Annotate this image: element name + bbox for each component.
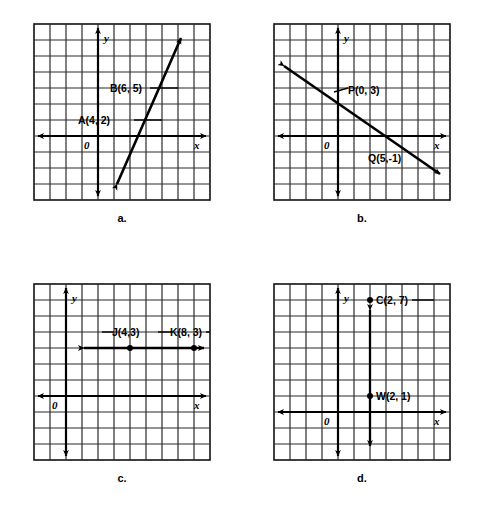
panel-a: A(4, 2) B(6, 5) y x 0 a. [26, 16, 218, 208]
point-marker-c [367, 297, 373, 303]
panel-a-graph: A(4, 2) B(6, 5) y x 0 [26, 16, 218, 208]
y-axis-label: y [342, 292, 349, 304]
panel-c-graph: J(4,3) K(8, 3) y x 0 [26, 276, 218, 468]
panel-d-graph: C(2, 7) W(2, 1) y x 0 [266, 276, 458, 468]
grid-frame [34, 284, 210, 460]
point-label-q: Q(5,-1) [368, 152, 401, 164]
point-marker-w [367, 393, 373, 399]
panel-d: C(2, 7) W(2, 1) y x 0 d. [266, 276, 458, 468]
point-label-c: C(2, 7) [376, 294, 408, 306]
x-axis-label: x [433, 139, 440, 151]
coordinate-plane-figure-sheet: A(4, 2) B(6, 5) y x 0 a. [0, 0, 484, 512]
y-axis-label: y [342, 32, 349, 44]
panel-caption-c: c. [26, 472, 218, 484]
panel-caption-d: d. [266, 472, 458, 484]
panel-caption-b: b. [266, 212, 458, 224]
panel-caption-a: a. [26, 212, 218, 224]
point-label-w: W(2, 1) [376, 390, 410, 402]
point-label-k: K(8, 3) [170, 326, 202, 338]
panel-b-graph: P(0, 3) Q(5,-1) y x 0 [266, 16, 458, 208]
point-label-p: P(0, 3) [348, 84, 380, 96]
x-axis-label: x [433, 415, 440, 427]
x-axis-label: x [193, 399, 200, 411]
grid-frame [274, 24, 450, 200]
origin-label: 0 [324, 415, 330, 427]
origin-label: 0 [324, 139, 330, 151]
point-label-a: A(4, 2) [78, 114, 110, 126]
x-axis-label: x [193, 139, 200, 151]
y-axis-label: y [70, 292, 77, 304]
panel-b: P(0, 3) Q(5,-1) y x 0 b. [266, 16, 458, 208]
origin-label: 0 [52, 399, 58, 411]
point-label-j: J(4,3) [112, 326, 139, 338]
grid-frame [274, 284, 450, 460]
origin-label: 0 [84, 139, 90, 151]
point-marker-k [191, 345, 197, 351]
point-label-b: B(6, 5) [110, 82, 142, 94]
panel-c: J(4,3) K(8, 3) y x 0 c. [26, 276, 218, 468]
point-marker-j [127, 345, 133, 351]
y-axis-label: y [102, 32, 109, 44]
